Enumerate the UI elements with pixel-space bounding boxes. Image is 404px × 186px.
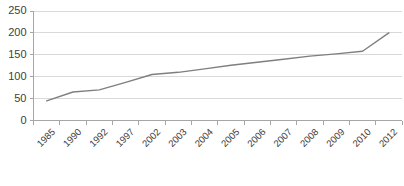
y-tick-label: 200 bbox=[8, 26, 26, 38]
chart-canvas: 050100150200250 198519901992199720022003… bbox=[0, 0, 404, 186]
y-tick-label: 150 bbox=[8, 48, 26, 60]
chart-background bbox=[0, 0, 404, 186]
line-chart-figure: 050100150200250 198519901992199720022003… bbox=[0, 0, 404, 186]
y-tick-label: 0 bbox=[20, 114, 26, 126]
y-tick-label: 100 bbox=[8, 70, 26, 82]
y-tick-label: 250 bbox=[8, 4, 26, 16]
y-tick-label: 50 bbox=[14, 92, 26, 104]
